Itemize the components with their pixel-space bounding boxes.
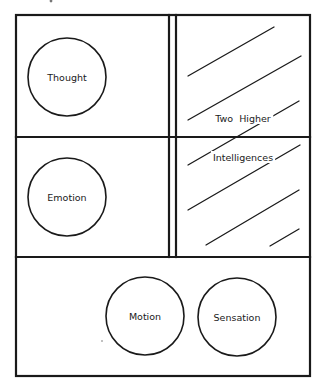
thought-label: Thought: [46, 72, 87, 83]
sensation-label: Sensation: [214, 312, 261, 323]
circle-thought: Thought: [28, 38, 106, 116]
circle-motion: Motion: [106, 277, 184, 355]
scan-artifact-dot: [101, 340, 102, 341]
circle-emotion: Emotion: [28, 158, 106, 236]
motion-label: Motion: [129, 311, 161, 322]
intelligences-label: Intelligences: [213, 152, 273, 163]
hatch-line: [188, 27, 274, 76]
hatch-line: [270, 229, 299, 246]
emotion-label: Emotion: [47, 192, 86, 203]
two-higher-label: Two Higher: [214, 113, 271, 124]
circle-sensation: Sensation: [198, 278, 276, 356]
top-scan-mark: [50, 0, 53, 2]
centres-diagram: Thought Emotion Motion Sensation Two Hig…: [0, 0, 325, 392]
